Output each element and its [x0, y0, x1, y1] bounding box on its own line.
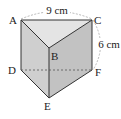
vertex-label-C: C — [94, 14, 101, 26]
vertex-label-D: D — [8, 64, 16, 76]
dim-label-height: 6 cm — [98, 38, 120, 50]
vertex-label-B: B — [51, 50, 58, 62]
vertex-label-E: E — [44, 100, 51, 112]
vertex-label-A: A — [9, 14, 17, 26]
dim-label-top: 9 cm — [46, 4, 68, 16]
prism-diagram: 9 cm 6 cm A C B D F E — [0, 0, 121, 119]
vertex-label-F: F — [95, 66, 101, 78]
